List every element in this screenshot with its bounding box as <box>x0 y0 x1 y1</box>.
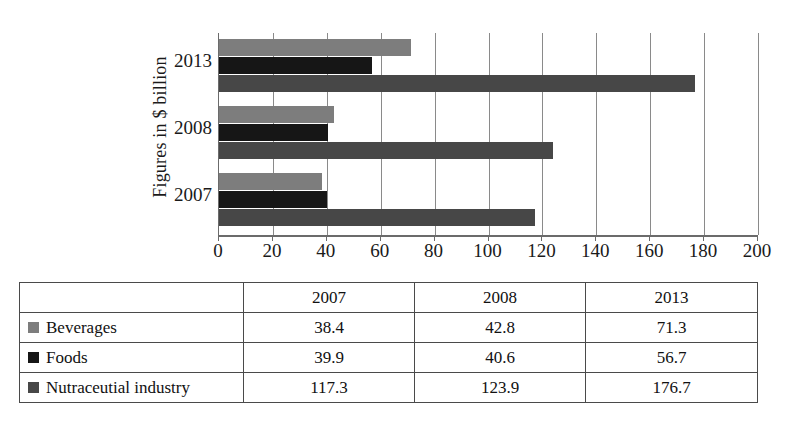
bar-foods-2013 <box>219 57 372 74</box>
table-header-row: 2007 2008 2013 <box>20 283 758 313</box>
gridline-180 <box>704 33 705 235</box>
data-table: 2007 2008 2013 Beverages38.442.871.3Food… <box>19 282 758 403</box>
table-cell-2013: 176.7 <box>586 373 758 403</box>
table-header-2013: 2013 <box>586 283 758 313</box>
category-label-2007: 2007 <box>158 184 212 206</box>
table-body: Beverages38.442.871.3Foods39.940.656.7Nu… <box>20 313 758 403</box>
bar-nutraceutial-2007 <box>219 209 535 226</box>
series-label: Beverages <box>46 318 117 337</box>
bar-foods-2008 <box>219 124 328 141</box>
tick-label-140: 140 <box>572 240 618 262</box>
gridline-60 <box>381 33 382 235</box>
table-row-label-cell: Beverages <box>20 313 244 343</box>
table-header-2008: 2008 <box>415 283 586 313</box>
gridline-140 <box>596 33 597 235</box>
bar-chart: Figures in $ billion 2013 2008 2007 0204… <box>0 0 797 268</box>
table-cell-2013: 71.3 <box>586 313 758 343</box>
category-label-2013: 2013 <box>158 50 212 72</box>
table-row-label-cell: Nutraceutial industry <box>20 373 244 403</box>
gridline-200 <box>758 33 759 235</box>
beverages-legend-icon <box>28 322 39 333</box>
bar-beverages-2013 <box>219 39 411 56</box>
table-cell-2013: 56.7 <box>586 343 758 373</box>
tick-label-100: 100 <box>465 240 511 262</box>
gridline-100 <box>489 33 490 235</box>
tick-label-0: 0 <box>195 240 241 262</box>
table-row-label-cell: Foods <box>20 343 244 373</box>
tick-label-120: 120 <box>518 240 564 262</box>
gridline-80 <box>435 33 436 235</box>
table-row: Beverages38.442.871.3 <box>20 313 758 343</box>
table-cell-2007: 38.4 <box>244 313 415 343</box>
series-label: Nutraceutial industry <box>46 378 190 397</box>
bar-beverages-2008 <box>219 106 334 123</box>
table-row: Nutraceutial industry117.3123.9176.7 <box>20 373 758 403</box>
table-cell-2007: 39.9 <box>244 343 415 373</box>
plot-area <box>218 33 758 235</box>
category-axis-labels: 2013 2008 2007 <box>160 33 212 235</box>
series-label: Foods <box>46 348 88 367</box>
tick-label-40: 40 <box>303 240 349 262</box>
data-table-region: 2007 2008 2013 Beverages38.442.871.3Food… <box>19 282 759 403</box>
tick-label-200: 200 <box>734 240 780 262</box>
bar-foods-2007 <box>219 191 327 208</box>
category-label-2008: 2008 <box>158 117 212 139</box>
table-cell-2008: 123.9 <box>415 373 586 403</box>
table-cell-2007: 117.3 <box>244 373 415 403</box>
bar-nutraceutial-2008 <box>219 142 553 159</box>
table-row: Foods39.940.656.7 <box>20 343 758 373</box>
tick-label-160: 160 <box>626 240 672 262</box>
table-corner-cell <box>20 283 244 313</box>
table-cell-2008: 40.6 <box>415 343 586 373</box>
gridline-120 <box>542 33 543 235</box>
foods-legend-icon <box>28 352 39 363</box>
tick-label-180: 180 <box>680 240 726 262</box>
tick-label-20: 20 <box>249 240 295 262</box>
table-cell-2008: 42.8 <box>415 313 586 343</box>
table-header-2007: 2007 <box>244 283 415 313</box>
tick-label-60: 60 <box>357 240 403 262</box>
gridline-160 <box>650 33 651 235</box>
bar-beverages-2007 <box>219 173 322 190</box>
tick-label-80: 80 <box>411 240 457 262</box>
bar-nutraceutial-2013 <box>219 75 695 92</box>
nutra-legend-icon <box>28 382 39 393</box>
